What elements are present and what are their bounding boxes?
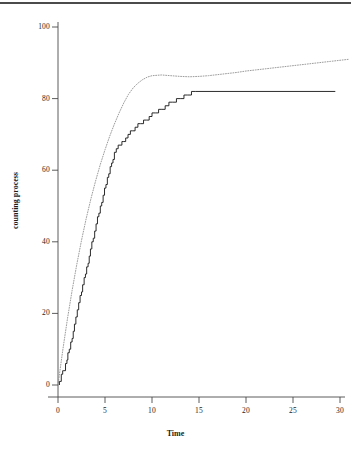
x-tick-marks xyxy=(58,397,340,403)
scan-artifact-line xyxy=(0,2,351,4)
fitted-mean-curve xyxy=(58,59,349,385)
x-tick-label: 30 xyxy=(320,406,351,415)
x-axis-title: Time xyxy=(0,429,351,438)
y-tick-marks xyxy=(52,27,58,385)
y-tick-label: 0 xyxy=(10,380,50,389)
x-tick-label: 20 xyxy=(226,406,266,415)
x-tick-label: 25 xyxy=(273,406,313,415)
x-tick-label: 5 xyxy=(85,406,125,415)
plot-canvas xyxy=(0,0,351,450)
y-tick-label: 20 xyxy=(10,308,50,317)
x-tick-label: 15 xyxy=(179,406,219,415)
x-tick-label: 10 xyxy=(132,406,172,415)
y-tick-label: 40 xyxy=(10,237,50,246)
counting-process-step xyxy=(59,91,335,385)
y-tick-label: 60 xyxy=(10,165,50,174)
y-tick-label: 80 xyxy=(10,94,50,103)
counting-process-figure: counting process Time 020406080100 05101… xyxy=(0,0,351,450)
y-tick-label: 100 xyxy=(10,22,50,31)
x-tick-label: 0 xyxy=(38,406,78,415)
axes-group xyxy=(48,22,345,403)
